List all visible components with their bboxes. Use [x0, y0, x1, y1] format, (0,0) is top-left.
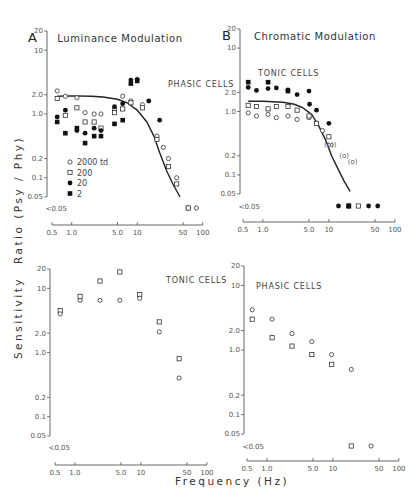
data-point-open-circle — [290, 331, 294, 335]
data-point-open-square — [186, 206, 190, 210]
below-threshold-label: <0.05 — [239, 203, 260, 211]
legend-marker-filled-square — [68, 191, 73, 196]
data-point-open-circle — [310, 339, 314, 343]
y-tick-label: 0.2 — [32, 155, 43, 163]
data-point-filled-square — [266, 80, 271, 85]
x-tick-label: 1.0 — [69, 469, 80, 477]
data-point-filled-square — [92, 134, 97, 139]
x-tick-label: 10 — [328, 465, 337, 473]
data-point-open-square — [118, 270, 122, 274]
data-point-filled-square — [246, 80, 251, 85]
data-point-open-circle — [274, 116, 278, 120]
data-point-filled-square — [55, 120, 60, 125]
data-point-open-square — [314, 121, 318, 125]
panel-letter: B — [222, 28, 231, 43]
x-tick-label: 10 — [324, 226, 333, 234]
data-point-open-square — [327, 135, 331, 139]
y-tick-label: 0.05 — [27, 193, 43, 201]
data-point-open-circle — [270, 317, 274, 321]
panel-title: Chromatic Modulation — [254, 31, 376, 42]
y-tick-label: 20 — [37, 265, 46, 273]
data-point-open-circle — [175, 176, 179, 180]
data-point-filled-circle — [83, 131, 88, 136]
y-tick-label: 1.0 — [229, 346, 240, 354]
data-point-filled-square — [129, 81, 134, 86]
cell-type-label: PHASIC CELLS — [256, 282, 322, 291]
x-tick-label: 100 — [392, 465, 405, 473]
data-point-filled-circle — [266, 86, 271, 91]
data-point-open-circle — [118, 298, 122, 302]
data-point-open-circle — [295, 117, 299, 121]
data-point-open-square — [254, 104, 258, 108]
data-point-open-circle — [138, 296, 142, 300]
x-tick-label: 5.0 — [115, 469, 126, 477]
data-point-filled-circle — [55, 115, 60, 120]
x-tick-label: 100 — [196, 229, 209, 237]
y-axis-label-ratio: Ratio (Psy / Phy) — [12, 136, 24, 264]
panel-a-top: 20102.01.00.20.10.05<0.050.51.05.0105010… — [27, 27, 234, 237]
data-point-open-circle — [194, 206, 198, 210]
data-point-filled-circle — [295, 92, 300, 97]
y-tick-label: 0.1 — [229, 411, 240, 419]
data-point-open-square — [98, 279, 102, 283]
data-point-filled-square — [83, 141, 88, 146]
data-point-open-circle — [320, 128, 324, 132]
x-tick-label: 10 — [133, 229, 142, 237]
data-point-open-circle — [254, 114, 258, 118]
x-tick-label: 100 — [388, 226, 401, 234]
panel-a-bottom: 20102.01.00.20.10.05<0.050.51.05.0105010… — [30, 265, 227, 477]
data-point-open-square — [330, 362, 334, 366]
x-tick-label: 10 — [136, 469, 145, 477]
y-tick-label: 0.05 — [220, 190, 236, 198]
data-point-filled-circle — [254, 88, 259, 93]
data-point-filled-circle — [274, 86, 279, 91]
y-tick-label: 1.0 — [32, 110, 43, 118]
data-point-open-circle — [166, 156, 170, 160]
x-tick-label: 1.0 — [261, 465, 272, 473]
data-point-open-circle — [161, 145, 165, 149]
data-point-open-circle — [177, 376, 181, 380]
data-point-filled-circle — [92, 126, 97, 131]
legend-marker-open-circle — [68, 160, 72, 164]
data-point-open-circle — [92, 112, 96, 116]
data-point-open-square — [356, 204, 360, 208]
data-point-filled-circle — [314, 108, 319, 113]
x-tick-label: 5.0 — [112, 229, 123, 237]
data-point-open-circle — [99, 112, 103, 116]
data-point-open-square — [112, 111, 116, 115]
data-point-open-circle — [369, 444, 373, 448]
panel-b-bottom: 20102.01.00.20.10.05<0.050.51.05.0105010… — [224, 262, 405, 473]
y-tick-label: 0.1 — [32, 174, 43, 182]
data-point-filled-circle — [120, 101, 125, 106]
panel-title: Luminance Modulation — [57, 33, 182, 44]
data-point-filled-circle — [326, 121, 331, 126]
data-point-open-square — [63, 113, 67, 117]
uncertain-point: (o) — [348, 158, 358, 166]
data-point-filled-circle — [99, 128, 104, 133]
data-point-open-circle — [98, 298, 102, 302]
data-point-filled-circle — [246, 85, 251, 90]
data-point-open-square — [307, 114, 311, 118]
data-point-open-square — [290, 344, 294, 348]
data-point-open-circle — [63, 94, 67, 98]
cell-type-label: PHASIC CELLS — [168, 80, 234, 89]
x-tick-label: 0.5 — [241, 465, 252, 473]
data-point-open-square — [155, 137, 159, 141]
data-point-filled-circle — [307, 102, 312, 107]
data-point-open-circle — [330, 352, 334, 356]
data-point-open-circle — [246, 111, 250, 115]
data-point-filled-square — [75, 126, 80, 131]
y-tick-label: 0.1 — [35, 413, 46, 421]
x-tick-label: 100 — [200, 469, 213, 477]
data-point-open-circle — [58, 312, 62, 316]
x-tick-label: 5.0 — [307, 465, 318, 473]
panel-letter: A — [28, 30, 37, 45]
y-tick-label: 10 — [34, 47, 43, 55]
data-point-open-circle — [121, 94, 125, 98]
legend-label: 200 — [77, 169, 92, 178]
data-point-filled-circle — [307, 89, 312, 94]
data-point-filled-circle — [157, 118, 162, 123]
data-point-open-square — [270, 336, 274, 340]
y-tick-label: 10 — [227, 44, 236, 52]
data-point-open-circle — [266, 112, 270, 116]
